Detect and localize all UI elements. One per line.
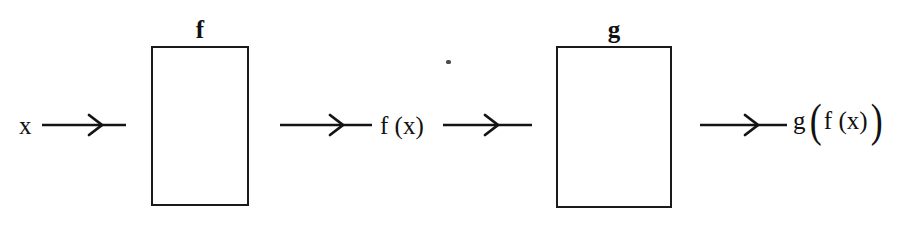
box-label-f: f — [151, 17, 249, 42]
output-inner-expression: f (x) — [823, 108, 869, 133]
arrow-f-to-fx — [280, 112, 372, 138]
output-paren-close: ) — [870, 104, 882, 137]
box-label-g: g — [556, 17, 672, 42]
scan-artifact-speck — [446, 60, 451, 64]
input-value-label: x — [19, 113, 32, 138]
function-composition-diagram: x f f (x) g g — [0, 0, 906, 225]
output-value-label: g ( f (x) ) — [793, 104, 884, 137]
process-box-g — [556, 46, 672, 208]
process-box-f — [151, 46, 249, 206]
output-paren-open: ( — [809, 104, 821, 137]
arrow-g-to-gfx — [700, 112, 787, 138]
intermediate-value-label: f (x) — [380, 113, 424, 138]
output-outer-function: g — [793, 108, 808, 133]
arrow-fx-to-g — [443, 112, 532, 138]
arrow-x-to-f — [42, 112, 126, 138]
